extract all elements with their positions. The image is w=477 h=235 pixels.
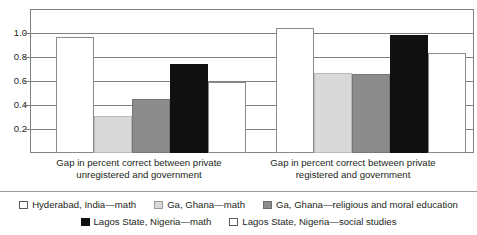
legend-swatch-icon	[19, 201, 28, 209]
legend-item[interactable]: Ga, Ghana—math	[154, 199, 245, 210]
legend-label: Ga, Ghana—math	[167, 199, 245, 210]
y-axis: 1.00.80.60.40.2	[0, 0, 30, 155]
legend-swatch-icon	[229, 218, 238, 226]
legend-item[interactable]: Hyderabad, India—math	[19, 199, 136, 210]
legend-swatch-icon	[81, 218, 90, 226]
legend-item[interactable]: Ga, Ghana—religious and moral education	[263, 199, 458, 210]
bar-group	[276, 10, 466, 153]
bar	[276, 28, 314, 153]
bar	[428, 53, 466, 153]
bar-chart-figure: 1.00.80.60.40.2 Gap in percent correct b…	[0, 0, 477, 235]
bar	[352, 74, 390, 153]
bar	[314, 73, 352, 153]
plot-area: 1.00.80.60.40.2	[0, 0, 477, 155]
category-axis-labels: Gap in percent correct between privateun…	[0, 157, 477, 191]
category-label: Gap in percent correct between privateun…	[34, 157, 244, 182]
legend-row: Hyderabad, India—mathGa, Ghana—mathGa, G…	[0, 196, 477, 213]
legend-swatch-icon	[154, 201, 163, 209]
category-label: Gap in percent correct between privatere…	[248, 157, 458, 182]
category-label-line: unregistered and government	[34, 169, 244, 181]
legend-label: Hyderabad, India—math	[32, 199, 136, 210]
bar	[56, 37, 94, 153]
legend-label: Lagos State, Nigeria—social studies	[242, 216, 396, 227]
category-label-line: registered and government	[248, 169, 458, 181]
bars-layer	[31, 10, 473, 153]
category-label-line: Gap in percent correct between private	[34, 157, 244, 169]
bar-group	[56, 10, 246, 153]
bar	[170, 64, 208, 153]
bar	[132, 99, 170, 153]
chart-legend: Hyderabad, India—mathGa, Ghana—mathGa, G…	[0, 191, 477, 235]
legend-item[interactable]: Lagos State, Nigeria—social studies	[229, 216, 396, 227]
bar	[208, 82, 246, 153]
legend-row: Lagos State, Nigeria—mathLagos State, Ni…	[0, 213, 477, 230]
legend-swatch-icon	[263, 201, 272, 209]
bar	[390, 35, 428, 153]
category-label-line: Gap in percent correct between private	[248, 157, 458, 169]
legend-item[interactable]: Lagos State, Nigeria—math	[81, 216, 212, 227]
legend-label: Ga, Ghana—religious and moral education	[276, 199, 458, 210]
bar	[94, 116, 132, 153]
legend-label: Lagos State, Nigeria—math	[94, 216, 212, 227]
